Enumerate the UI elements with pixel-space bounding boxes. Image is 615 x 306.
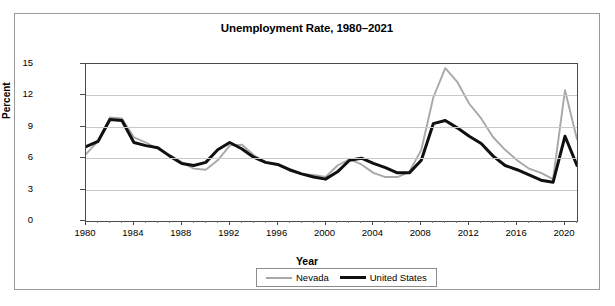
x-tick-minor — [456, 221, 457, 223]
y-tick-label: 0 — [3, 215, 33, 225]
x-tick-minor — [492, 221, 493, 223]
x-tick-mark — [516, 221, 517, 225]
x-tick-label: 2016 — [496, 228, 536, 238]
y-tick-mark — [80, 63, 85, 64]
x-tick-mark — [133, 221, 134, 225]
x-tick-label: 2008 — [400, 228, 440, 238]
x-tick-label: 2012 — [448, 228, 488, 238]
x-tick-minor — [576, 221, 577, 223]
x-tick-minor — [408, 221, 409, 223]
x-tick-label: 2000 — [305, 228, 345, 238]
y-axis-label: Percent — [1, 82, 12, 119]
gridline — [86, 158, 577, 159]
plot-area — [85, 63, 578, 222]
y-tick-label: 3 — [3, 184, 33, 194]
x-tick-minor — [253, 221, 254, 223]
x-tick-mark — [85, 221, 86, 225]
x-tick-mark — [420, 221, 421, 225]
x-tick-minor — [384, 221, 385, 223]
x-tick-minor — [432, 221, 433, 223]
gridline — [86, 95, 577, 96]
y-tick-label: 9 — [3, 121, 33, 131]
series-line-united-states — [86, 119, 577, 182]
legend-item-nevada: Nevada — [266, 272, 329, 283]
x-tick-minor — [265, 221, 266, 223]
x-tick-minor — [336, 221, 337, 223]
y-tick-mark — [80, 157, 85, 158]
x-tick-minor — [528, 221, 529, 223]
legend-swatch-united-states — [340, 276, 366, 280]
x-tick-minor — [157, 221, 158, 223]
x-tick-minor — [121, 221, 122, 223]
gridline — [86, 127, 577, 128]
x-tick-label: 1984 — [113, 228, 153, 238]
x-tick-minor — [444, 221, 445, 223]
x-tick-label: 1992 — [209, 228, 249, 238]
x-tick-minor — [97, 221, 98, 223]
x-tick-mark — [181, 221, 182, 225]
x-axis-label: Year — [15, 255, 599, 267]
x-tick-label: 2020 — [544, 228, 584, 238]
x-tick-minor — [145, 221, 146, 223]
x-tick-minor — [348, 221, 349, 223]
x-tick-minor — [169, 221, 170, 223]
y-tick-mark — [80, 94, 85, 95]
legend-swatch-nevada — [266, 277, 292, 279]
x-tick-mark — [372, 221, 373, 225]
legend-item-united-states: United States — [340, 272, 427, 283]
legend-label-united-states: United States — [370, 272, 427, 283]
x-tick-mark — [564, 221, 565, 225]
x-tick-minor — [396, 221, 397, 223]
x-tick-label: 1996 — [257, 228, 297, 238]
x-tick-minor — [289, 221, 290, 223]
chart-title: Unemployment Rate, 1980–2021 — [15, 22, 599, 34]
y-tick-label: 12 — [3, 89, 33, 99]
x-tick-minor — [504, 221, 505, 223]
x-tick-minor — [217, 221, 218, 223]
y-tick-label: 6 — [3, 152, 33, 162]
x-tick-minor — [552, 221, 553, 223]
chart-legend: Nevada United States — [256, 268, 437, 287]
x-tick-minor — [480, 221, 481, 223]
series-lines — [86, 64, 577, 221]
x-tick-label: 2004 — [352, 228, 392, 238]
y-tick-mark — [80, 189, 85, 190]
y-tick-label: 15 — [3, 58, 33, 68]
x-tick-mark — [325, 221, 326, 225]
x-tick-mark — [468, 221, 469, 225]
x-tick-label: 1980 — [65, 228, 105, 238]
x-tick-label: 1988 — [161, 228, 201, 238]
x-tick-minor — [301, 221, 302, 223]
x-tick-mark — [229, 221, 230, 225]
legend-label-nevada: Nevada — [296, 272, 329, 283]
chart-figure: Unemployment Rate, 1980–2021 Percent Yea… — [14, 13, 600, 290]
x-tick-minor — [313, 221, 314, 223]
y-tick-mark — [80, 126, 85, 127]
x-tick-minor — [241, 221, 242, 223]
x-tick-minor — [205, 221, 206, 223]
x-tick-minor — [540, 221, 541, 223]
x-tick-minor — [109, 221, 110, 223]
x-tick-minor — [193, 221, 194, 223]
gridline — [86, 190, 577, 191]
x-tick-minor — [360, 221, 361, 223]
x-tick-mark — [277, 221, 278, 225]
